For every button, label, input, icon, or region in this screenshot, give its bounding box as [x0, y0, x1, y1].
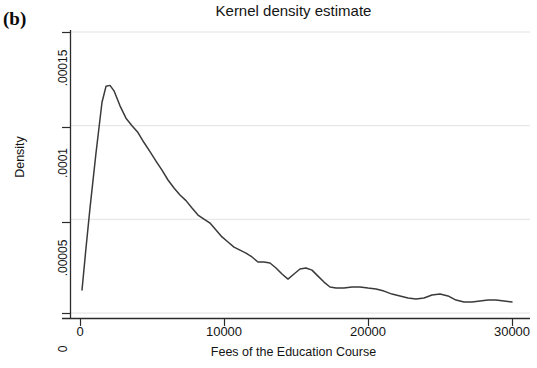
y-tick-label-0: 0	[56, 314, 70, 368]
y-axis-label: Density	[13, 117, 27, 197]
y-tick-label-1: .00005	[56, 223, 70, 293]
axes	[62, 30, 530, 326]
x-axis-label: Fees of the Education Course	[70, 345, 517, 359]
x-tick-label-2: 20000	[328, 324, 408, 339]
y-tick-label-3: .00015	[56, 33, 70, 103]
gridlines	[70, 32, 530, 313]
figure-panel-b: (b) Kernel density estimate Density Fees…	[0, 0, 537, 368]
chart-title: Kernel density estimate	[70, 2, 517, 19]
x-tick-label-3: 30000	[472, 324, 537, 339]
y-tick-label-2: .0001	[56, 128, 70, 198]
panel-label: (b)	[3, 8, 26, 30]
plot-area	[0, 0, 537, 368]
x-tick-label-1: 10000	[184, 324, 264, 339]
x-tick-label-0: 0	[50, 324, 110, 339]
density-curve	[82, 85, 512, 302]
